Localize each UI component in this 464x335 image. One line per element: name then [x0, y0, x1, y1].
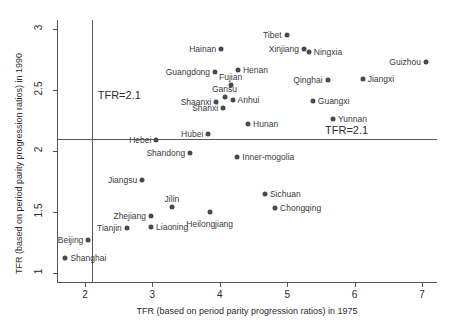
data-label-qinghai: Qinghai [293, 76, 322, 85]
reference-label-vertical: TFR=2.1 [98, 89, 141, 101]
x-tick-label-2: 2 [82, 289, 88, 300]
data-label-liaoning: Liaoning [156, 222, 188, 231]
data-point-ningxia[interactable] [306, 50, 311, 55]
x-tick-label-5: 5 [284, 289, 290, 300]
data-label-shandong: Shandong [146, 149, 185, 158]
x-tick-label-4: 4 [217, 289, 223, 300]
data-point-chongqing[interactable] [273, 206, 278, 211]
data-point-qinghai[interactable] [325, 78, 330, 83]
data-label-heilongjiang: Heilongjiang [186, 220, 233, 229]
data-point-sichuan[interactable] [262, 191, 267, 196]
y-tick-1 [53, 273, 57, 274]
data-point-guizhou[interactable] [424, 59, 429, 64]
data-point-zhejiang[interactable] [149, 213, 154, 218]
data-label-hunan: Hunan [253, 120, 278, 129]
data-label-beijing: Beijing [58, 236, 84, 245]
data-point-gansu[interactable] [222, 95, 227, 100]
x-tick-3 [152, 283, 153, 287]
scatter-plot-figure: 11.522.53234567TFR (based on period pari… [0, 0, 464, 335]
data-point-jiangsu[interactable] [140, 178, 145, 183]
data-label-guizhou: Guizhou [389, 58, 421, 67]
data-label-fujian: Fujian [219, 73, 242, 82]
data-point-liaoning[interactable] [149, 224, 154, 229]
data-label-hainan: Hainan [189, 44, 216, 53]
x-tick-label-6: 6 [352, 289, 358, 300]
data-label-ningxia: Ningxia [314, 48, 342, 57]
data-label-yunnan: Yunnan [338, 115, 367, 124]
data-point-shanghai[interactable] [63, 256, 68, 261]
data-point-tianjin[interactable] [124, 225, 129, 230]
y-tick-label-1: 1 [33, 261, 44, 283]
data-label-tianjin: Tianjin [97, 224, 122, 233]
data-point-guangdong[interactable] [213, 69, 218, 74]
data-label-guangxi: Guangxi [318, 97, 350, 106]
reference-label-horizontal: TFR=2.1 [325, 124, 368, 136]
reference-line-horizontal [57, 139, 437, 140]
data-label-hubei: Hubei [181, 130, 203, 139]
y-tick-2.5 [53, 90, 57, 91]
data-label-inner-mogolia: Inner-mogolia [242, 153, 294, 162]
y-tick-2 [53, 151, 57, 152]
x-tick-4 [220, 283, 221, 287]
data-label-jilin: Jilin [165, 195, 180, 204]
reference-line-vertical [92, 20, 93, 282]
plot-canvas: 11.522.53234567TFR (based on period pari… [0, 0, 464, 335]
x-axis-line [57, 282, 437, 283]
data-point-hainan[interactable] [219, 46, 224, 51]
data-point-guangxi[interactable] [310, 98, 315, 103]
y-axis-title: TFR (based on period parity progression … [14, 53, 24, 274]
data-point-hebei[interactable] [154, 138, 159, 143]
data-label-xinjiang: Xinjiang [269, 44, 299, 53]
data-point-shanxi[interactable] [221, 106, 226, 111]
data-label-gansu: Gansu [212, 85, 237, 94]
x-tick-5 [287, 283, 288, 287]
y-tick-label-2.5: 2.5 [33, 78, 44, 100]
data-point-jilin[interactable] [169, 205, 174, 210]
y-tick-label-1.5: 1.5 [33, 200, 44, 222]
data-label-guangdong: Guangdong [166, 67, 210, 76]
data-point-beijing[interactable] [86, 238, 91, 243]
data-label-chongqing: Chongqing [280, 204, 321, 213]
data-point-hunan[interactable] [246, 122, 251, 127]
data-label-tibet: Tibet [263, 31, 282, 40]
x-tick-2 [85, 283, 86, 287]
data-point-inner-mogolia[interactable] [235, 155, 240, 160]
data-label-jiangsu: Jiangsu [108, 176, 137, 185]
data-point-anhui[interactable] [230, 97, 235, 102]
data-label-anhui: Anhui [238, 96, 260, 105]
y-tick-label-3: 3 [33, 17, 44, 39]
data-point-hubei[interactable] [206, 131, 211, 136]
data-label-henan: Henan [243, 66, 268, 75]
x-axis-title: TFR (based on period parity progression … [136, 306, 357, 316]
data-point-shandong[interactable] [188, 151, 193, 156]
data-label-zhejiang: Zhejiang [113, 211, 146, 220]
y-tick-label-2: 2 [33, 139, 44, 161]
x-tick-label-3: 3 [150, 289, 156, 300]
data-point-yunnan[interactable] [331, 117, 336, 122]
y-tick-1.5 [53, 212, 57, 213]
x-tick-label-7: 7 [419, 289, 425, 300]
data-point-jiangxi[interactable] [360, 77, 365, 82]
data-label-jiangxi: Jiangxi [368, 75, 394, 84]
data-point-tibet[interactable] [284, 33, 289, 38]
x-tick-6 [355, 283, 356, 287]
x-tick-7 [422, 283, 423, 287]
data-point-heilongjiang[interactable] [207, 210, 212, 215]
data-label-sichuan: Sichuan [270, 189, 301, 198]
data-label-shanxi: Shanxi [192, 104, 218, 113]
data-label-shanghai: Shanghai [70, 254, 106, 263]
data-label-hebei: Hebei [129, 136, 151, 145]
y-tick-3 [53, 29, 57, 30]
